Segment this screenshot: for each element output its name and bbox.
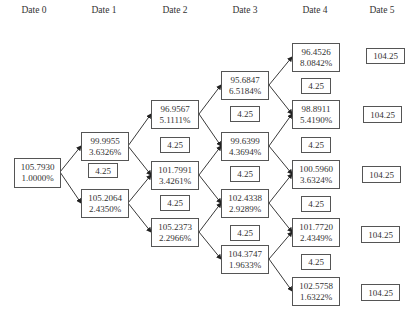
node-price: 101.7720 [299,222,333,233]
node-price: 102.5758 [299,281,333,292]
node-price: 104.3747 [228,249,262,260]
node-rate: 5.4190% [300,115,332,126]
tree-node-d3-3: 104.3747 1.9633% [221,245,269,274]
node-rate: 1.9633% [229,260,261,271]
node-price: 105.2064 [88,193,122,204]
final-payoff-box: 104.25 [363,106,402,123]
node-price: 102.4338 [228,193,262,204]
final-payoff-box: 104.25 [361,284,400,301]
header-date-4: Date 4 [290,5,340,15]
coupon-box: 4.25 [301,196,331,212]
coupon-box: 4.25 [301,137,331,153]
coupon-box: 4.25 [230,225,260,241]
header-date-2: Date 2 [150,5,200,15]
tree-node-d3-0: 95.6847 6.5184% [221,71,269,100]
node-price: 99.6399 [230,136,259,147]
final-payoff-box: 104.25 [361,226,400,243]
final-payoff-box: 104.25 [362,166,401,183]
tree-node-d2-1: 101.7991 3.4261% [151,161,199,190]
node-price: 105.7930 [21,162,55,173]
tree-node-d3-1: 99.6399 4.3694% [221,132,269,161]
node-rate: 5.1111% [159,115,190,126]
coupon-box: 4.25 [230,106,260,122]
tree-node-d1-1: 105.2064 2.4350% [81,189,129,218]
node-rate: 3.6324% [300,175,332,186]
node-rate: 1.6322% [300,292,332,303]
node-price: 96.4526 [301,47,330,58]
node-rate: 2.4350% [89,204,121,215]
header-date-3: Date 3 [220,5,270,15]
coupon-box: 4.25 [160,137,190,153]
tree-node-d4-0: 96.4526 8.0842% [292,43,340,72]
node-rate: 2.4349% [300,233,332,244]
coupon-box: 4.25 [88,163,118,178]
tree-edges [0,0,420,320]
tree-node-d0-0: 105.7930 1.0000% [14,158,61,188]
node-price: 100.5960 [299,164,333,175]
coupon-box: 4.25 [301,78,331,94]
coupon-box: 4.25 [230,166,260,182]
node-price: 99.9955 [90,136,119,147]
tree-node-d4-1: 98.8911 5.4190% [292,100,340,129]
tree-node-d4-4: 102.5758 1.6322% [292,277,340,306]
node-price: 105.2373 [158,222,192,233]
tree-node-d2-2: 105.2373 2.2966% [151,218,199,247]
header-date-5: Date 5 [357,5,407,15]
tree-node-d3-2: 102.4338 2.9289% [221,189,269,218]
node-rate: 6.5184% [229,86,261,97]
node-rate: 3.4261% [159,176,191,187]
node-price: 95.6847 [230,75,259,86]
final-payoff-box: 104.25 [366,48,405,64]
node-price: 96.9567 [160,104,189,115]
coupon-box: 4.25 [160,195,190,211]
tree-node-d4-2: 100.5960 3.6324% [292,160,340,189]
node-rate: 8.0842% [300,58,332,69]
node-rate: 2.2966% [159,233,191,244]
node-rate: 3.6326% [89,147,121,158]
node-price: 101.7991 [158,165,192,176]
node-rate: 1.0000% [21,173,53,184]
header-date-1: Date 1 [79,5,129,15]
node-rate: 2.9289% [229,204,261,215]
tree-node-d2-0: 96.9567 5.1111% [151,100,199,129]
tree-node-d1-0: 99.9955 3.6326% [81,132,129,161]
node-price: 98.8911 [302,104,331,115]
tree-node-d4-3: 101.7720 2.4349% [292,218,340,247]
coupon-box: 4.25 [301,254,331,270]
header-date-0: Date 0 [9,5,59,15]
node-rate: 4.3694% [229,147,261,158]
